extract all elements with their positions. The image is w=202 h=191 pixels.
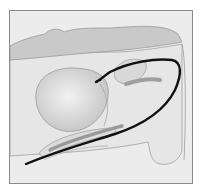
illustration-frame — [9, 10, 193, 184]
catheter-anatomy-diagram — [9, 10, 193, 184]
